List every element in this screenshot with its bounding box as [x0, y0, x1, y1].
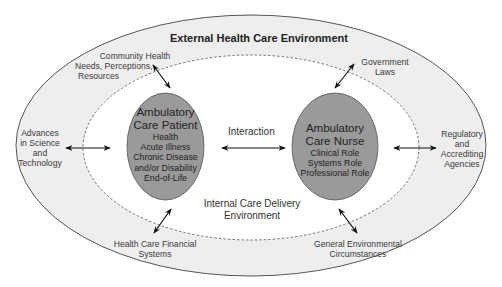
label-financial-systems: Health Care Financial Systems: [100, 239, 210, 259]
label-community-health: Community Health Needs, Perceptions, Res…: [72, 51, 184, 81]
nurse-text: Ambulatory Care Nurse Clinical Role Syst…: [292, 122, 378, 179]
diagram-title: External Health Care Environment: [170, 32, 348, 44]
internal-environment-label: Internal Care Delivery Environment: [198, 198, 306, 222]
interaction-label: Interaction: [228, 126, 275, 138]
label-environmental-circumstances: General Environmental Circumstances: [303, 239, 413, 259]
patient-text: Ambulatory Care Patient Health Acute Ill…: [127, 106, 204, 183]
label-science-technology: Advances in Science and Technology: [18, 128, 62, 168]
label-regulatory-agencies: Regulatory and Accrediting Agencies: [437, 129, 487, 169]
label-government-laws: Government Laws: [355, 57, 415, 77]
